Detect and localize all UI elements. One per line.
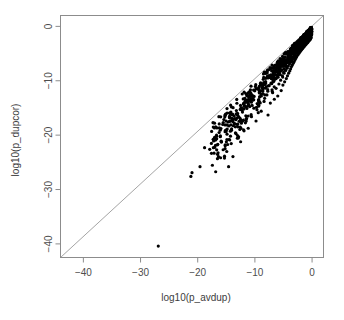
data-point	[218, 126, 221, 129]
data-point	[236, 123, 239, 126]
data-point	[271, 90, 274, 93]
scatter-points-layer	[157, 26, 314, 248]
data-point	[233, 122, 236, 125]
data-point	[279, 79, 282, 82]
data-point	[226, 143, 229, 146]
plot-canvas: −40−30−20−100 0−10−20−30−40 log10(p_avdu…	[0, 0, 344, 320]
y-tick-label: −40	[43, 235, 54, 252]
data-point	[248, 90, 251, 93]
data-point	[262, 81, 265, 84]
data-point	[277, 82, 280, 85]
data-point	[277, 67, 280, 70]
scatter-plot-figure: −40−30−20−100 0−10−20−30−40 log10(p_avdu…	[0, 0, 344, 320]
data-point	[276, 94, 279, 97]
data-point	[260, 110, 263, 113]
data-point	[270, 82, 273, 85]
data-point	[230, 129, 233, 132]
data-point	[227, 120, 230, 123]
x-axis-title: log10(p_avdup)	[161, 292, 231, 303]
y-tick-label: −10	[43, 72, 54, 89]
data-point	[280, 64, 283, 67]
x-axis-tick-labels: −40−30−20−100	[75, 267, 315, 278]
data-point	[213, 122, 216, 125]
x-tick-label: −30	[132, 267, 149, 278]
data-point	[244, 121, 247, 124]
data-point	[273, 74, 276, 77]
data-point	[210, 130, 213, 133]
data-point	[249, 85, 252, 88]
data-point	[230, 105, 233, 108]
data-point	[233, 115, 236, 118]
data-point	[283, 58, 286, 61]
data-point	[222, 118, 225, 121]
data-point	[189, 175, 192, 178]
data-point	[281, 76, 284, 79]
data-point	[245, 93, 248, 96]
data-point	[257, 111, 260, 114]
data-point	[216, 151, 219, 154]
data-point	[310, 28, 313, 31]
data-point	[235, 109, 238, 112]
data-point	[247, 127, 250, 130]
data-point	[267, 84, 270, 87]
data-point	[250, 113, 253, 116]
data-point	[257, 98, 260, 101]
data-point	[279, 69, 282, 72]
data-point	[262, 87, 265, 90]
data-point	[208, 148, 211, 151]
data-point	[214, 170, 217, 173]
data-point	[303, 37, 306, 40]
data-point	[218, 122, 221, 125]
data-point	[247, 104, 250, 107]
data-point	[282, 71, 285, 74]
data-point	[231, 155, 234, 158]
data-point	[277, 73, 280, 76]
data-point	[212, 139, 215, 142]
data-point	[298, 46, 301, 49]
data-point	[273, 85, 276, 88]
data-point	[285, 61, 288, 64]
data-point	[230, 119, 233, 122]
data-point	[259, 83, 262, 86]
data-point	[242, 107, 245, 110]
data-point	[203, 146, 206, 149]
data-point	[239, 140, 242, 143]
data-point	[217, 155, 220, 158]
data-point	[286, 54, 289, 57]
data-point	[236, 134, 239, 137]
data-point	[270, 77, 273, 80]
data-point	[225, 107, 228, 110]
data-point	[225, 138, 228, 141]
data-point	[306, 32, 309, 35]
data-point	[198, 165, 201, 168]
data-point	[219, 134, 222, 137]
data-point	[262, 100, 265, 103]
data-point	[247, 114, 250, 117]
data-point	[242, 128, 245, 131]
data-point	[290, 59, 293, 62]
data-point	[225, 150, 228, 153]
data-point	[234, 125, 237, 128]
data-point	[239, 108, 242, 111]
data-point	[243, 97, 246, 100]
y-axis-tick-labels: 0−10−20−30−40	[43, 23, 54, 252]
data-point	[285, 77, 288, 80]
data-point	[291, 50, 294, 53]
data-point	[292, 47, 295, 50]
data-point	[227, 165, 230, 168]
data-point	[252, 89, 255, 92]
data-point	[258, 91, 261, 94]
data-point	[229, 135, 232, 138]
data-point	[255, 106, 258, 109]
data-point	[251, 104, 254, 107]
data-point	[210, 142, 213, 145]
data-point	[238, 120, 241, 123]
data-point	[273, 98, 276, 101]
data-point	[254, 85, 257, 88]
data-point	[259, 101, 262, 104]
y-axis-ticks	[56, 26, 61, 244]
data-point	[220, 140, 223, 143]
data-point	[210, 152, 213, 155]
data-point	[266, 90, 269, 93]
data-point	[230, 142, 233, 145]
